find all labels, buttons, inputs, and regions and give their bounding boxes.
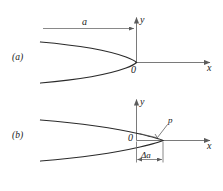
figure-container: (a) a y x 0 (0, 0, 223, 191)
panel-b-helper-chord (140, 134, 157, 138)
panel-b-tag: (b) (12, 130, 23, 141)
figure-canvas: (a) a y x 0 (0, 0, 223, 191)
panel-a-y-axis-label: y (139, 14, 145, 25)
panel-b-dimension-label: Δa (140, 150, 151, 160)
panel-a-dimension-label: a (82, 16, 87, 27)
panel-b-y-axis-label: y (139, 96, 145, 107)
panel-a-parabola (41, 42, 137, 83)
panel-a-x-axis-label: x (206, 62, 212, 73)
panel-b: (b) Δa p y x 0 (12, 96, 212, 163)
panel-b-origin-label: 0 (128, 132, 133, 143)
panel-b-point-leader (158, 125, 168, 138)
panel-b-point-label: p (167, 115, 173, 125)
panel-a-tag: (a) (12, 52, 23, 63)
panel-a: (a) a y x 0 (12, 14, 212, 83)
panel-b-x-axis-label: x (206, 140, 212, 151)
panel-a-origin-label: 0 (131, 64, 136, 75)
